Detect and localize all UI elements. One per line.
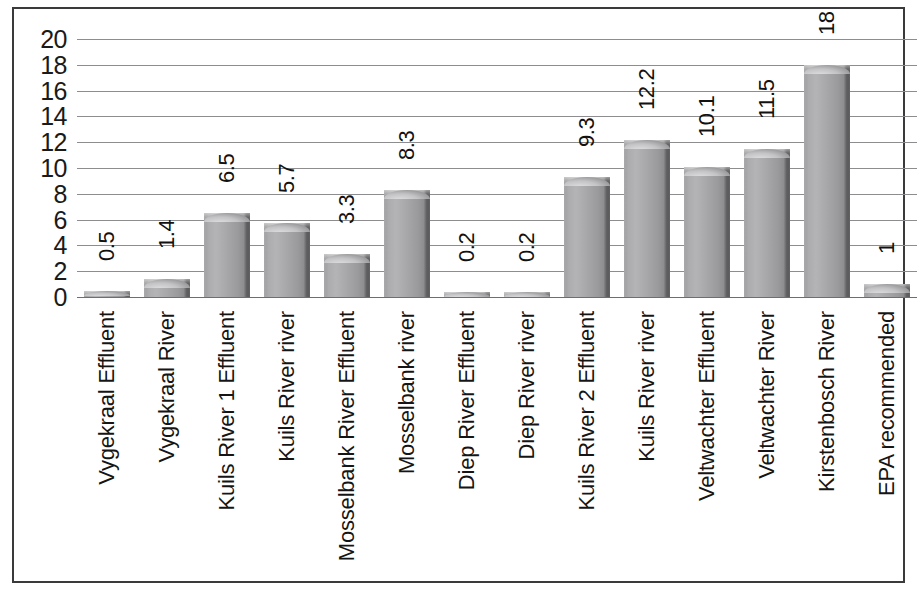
bar-slot: 11.5: [737, 39, 797, 297]
bar[interactable]: [624, 140, 670, 297]
x-axis-label: Veltwachter River: [756, 311, 778, 479]
x-axis-label: Kuils River 1 Effluent: [216, 311, 238, 510]
plot-area: 20181614121086420 0.51.46.55.73.38.30.20…: [77, 39, 917, 297]
gridline-0: [77, 297, 917, 298]
x-axis-label: Diep River river: [516, 311, 538, 459]
chart-figure: 20181614121086420 0.51.46.55.73.38.30.20…: [0, 0, 917, 597]
x-label-slot: Vygekraal River: [137, 309, 197, 579]
bar[interactable]: [84, 291, 130, 297]
x-axis-label: Vygekraal River: [156, 311, 178, 462]
bar-value-label: 12.2: [636, 68, 658, 109]
x-label-slot: Diep River river: [497, 309, 557, 579]
bar-slot: 3.3: [317, 39, 377, 297]
x-axis-label: Mosselbank river: [396, 311, 418, 474]
bar-value-label: 0.2: [456, 233, 478, 262]
bar-slot: 0.5: [77, 39, 137, 297]
bar-slot: 9.3: [557, 39, 617, 297]
x-axis-label: Vygekraal Effluent: [96, 311, 118, 485]
bar[interactable]: [864, 284, 910, 297]
bar-value-label: 8.3: [396, 131, 418, 160]
x-label-slot: Kirstenbosch River: [797, 309, 857, 579]
bar-value-label: 1.4: [156, 220, 178, 249]
bar[interactable]: [264, 223, 310, 297]
y-tick-label-16: 16: [40, 78, 67, 103]
bar-slot: 0.2: [497, 39, 557, 297]
y-tick-label-14: 14: [40, 104, 67, 129]
x-axis-label: Veltwachter Effluent: [696, 311, 718, 501]
bar-value-label: 3.3: [336, 195, 358, 224]
bar-value-label: 1: [876, 242, 898, 254]
bar-value-label: 6.5: [216, 154, 238, 183]
bar-value-label: 9.3: [576, 118, 598, 147]
x-label-slot: Kuils River 2 Effluent: [557, 309, 617, 579]
x-axis-label: Diep River Effluent: [456, 311, 478, 490]
bar-value-label: 11.5: [756, 79, 778, 119]
bar-slot: 5.7: [257, 39, 317, 297]
x-label-slot: Kuils River river: [257, 309, 317, 579]
bar-slot: 18: [797, 39, 857, 297]
y-tick-label-4: 4: [54, 233, 67, 258]
x-label-slot: Vygekraal Effluent: [77, 309, 137, 579]
bar-slot: 10.1: [677, 39, 737, 297]
y-tick-label-2: 2: [54, 259, 67, 284]
bar-value-label: 10.1: [696, 96, 718, 137]
bar-slot: 8.3: [377, 39, 437, 297]
bar-value-label: 5.7: [276, 164, 298, 193]
chart-frame: 20181614121086420 0.51.46.55.73.38.30.20…: [12, 7, 905, 583]
x-axis-label: Kuils River river: [276, 311, 298, 462]
bar[interactable]: [384, 190, 430, 297]
bar[interactable]: [504, 292, 550, 297]
x-label-slot: Mosselbank river: [377, 309, 437, 579]
x-axis-label: Kuils River river: [636, 311, 658, 462]
y-tick-label-12: 12: [40, 130, 67, 155]
x-axis-label: EPA recommended: [876, 311, 898, 496]
y-tick-label-0: 0: [54, 285, 67, 310]
bar[interactable]: [804, 65, 850, 297]
x-label-slot: Kuils River 1 Effluent: [197, 309, 257, 579]
x-label-slot: EPA recommended: [857, 309, 917, 579]
bar-slot: 0.2: [437, 39, 497, 297]
x-label-slot: Diep River Effluent: [437, 309, 497, 579]
y-tick-label-20: 20: [40, 27, 67, 52]
bar[interactable]: [324, 254, 370, 297]
bar[interactable]: [564, 177, 610, 297]
y-tick-label-6: 6: [54, 207, 67, 232]
x-label-slot: Veltwachter River: [737, 309, 797, 579]
bar-slot: 1: [857, 39, 917, 297]
x-axis-labels: Vygekraal EffluentVygekraal RiverKuils R…: [77, 309, 917, 579]
x-axis-label: Kirstenbosch River: [816, 311, 838, 492]
bar[interactable]: [204, 213, 250, 297]
x-axis-label: Mosselbank River Effluent: [336, 311, 358, 561]
bar[interactable]: [684, 167, 730, 297]
bar[interactable]: [444, 292, 490, 297]
y-tick-label-18: 18: [40, 52, 67, 77]
x-label-slot: Kuils River river: [617, 309, 677, 579]
bar-value-label: 0.5: [96, 231, 118, 260]
bar-value-label: 0.2: [516, 233, 538, 262]
bar[interactable]: [144, 279, 190, 297]
x-axis-label: Kuils River 2 Effluent: [576, 311, 598, 510]
x-label-slot: Mosselbank River Effluent: [317, 309, 377, 579]
bar-slot: 1.4: [137, 39, 197, 297]
bar-slot: 12.2: [617, 39, 677, 297]
x-label-slot: Veltwachter Effluent: [677, 309, 737, 579]
y-tick-label-8: 8: [54, 181, 67, 206]
y-tick-label-10: 10: [40, 156, 67, 181]
bar-value-label: 18: [816, 11, 838, 35]
bar[interactable]: [744, 149, 790, 297]
bar-slot: 6.5: [197, 39, 257, 297]
